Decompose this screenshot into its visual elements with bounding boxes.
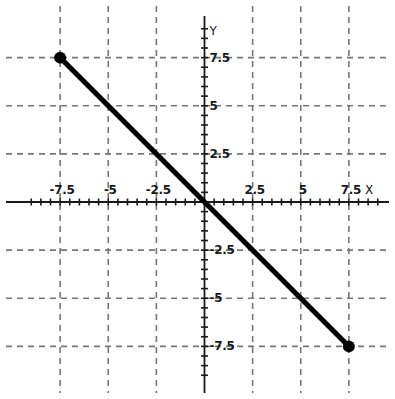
- axis-tick-label: 2.5: [210, 148, 230, 160]
- data-point-marker: [343, 340, 355, 352]
- axis-tick-label: -7.5: [50, 184, 75, 196]
- axis-tick-label: -2.5: [146, 184, 171, 196]
- graph-canvas: [0, 0, 395, 399]
- axis-tick-label: 7.5: [341, 184, 361, 196]
- x-axis-label: X: [365, 184, 373, 196]
- axis-tick-label: 7.5: [210, 52, 230, 64]
- coordinate-graph: -7.5-5-2.52.557.57.552.5-2.5-5-7.5 Y X: [0, 0, 395, 399]
- axis-lines: [6, 16, 389, 393]
- axis-tick-label: -5: [210, 292, 223, 304]
- axis-tick-label: 2.5: [244, 184, 264, 196]
- data-point-marker: [54, 52, 66, 64]
- axis-tick-label: -2.5: [210, 244, 235, 256]
- axis-tick-label: -7.5: [210, 340, 235, 352]
- axis-tick-label: -5: [104, 184, 117, 196]
- y-axis-label: Y: [210, 25, 217, 37]
- axis-tick-label: 5: [210, 100, 218, 112]
- axis-tick-label: 5: [299, 184, 307, 196]
